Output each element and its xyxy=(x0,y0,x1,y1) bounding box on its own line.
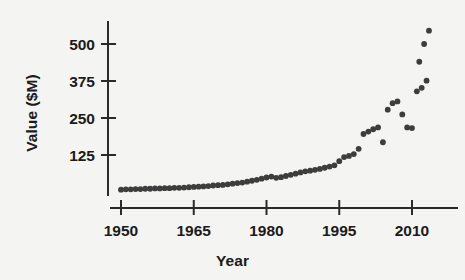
y-tick-label: 375 xyxy=(69,73,95,90)
x-tick-label: 1995 xyxy=(322,222,357,239)
data-point xyxy=(424,78,430,84)
y-tick-label: 250 xyxy=(69,110,95,127)
scatter-plot: 125250375500 19501965198019952010 xyxy=(0,0,465,280)
data-point xyxy=(283,173,289,179)
data-point xyxy=(317,166,323,172)
data-point xyxy=(322,165,328,171)
data-point xyxy=(351,151,357,157)
data-point xyxy=(375,125,381,131)
data-point xyxy=(307,168,313,174)
data-point xyxy=(268,174,274,180)
x-axis-title: Year xyxy=(0,252,465,270)
data-point xyxy=(395,99,401,105)
data-point xyxy=(244,179,250,185)
data-point xyxy=(327,164,333,170)
data-point xyxy=(341,154,347,160)
y-axis-title: Value ($M) xyxy=(23,53,41,173)
data-point xyxy=(419,85,425,91)
data-point xyxy=(288,172,294,178)
x-tick-label: 2010 xyxy=(395,222,429,239)
x-tick-label: 1980 xyxy=(249,222,283,239)
data-point xyxy=(278,174,284,180)
chart-figure: 125250375500 19501965198019952010 Value … xyxy=(0,0,465,280)
data-point xyxy=(239,180,245,186)
data-point xyxy=(254,177,260,183)
data-point xyxy=(293,171,299,177)
x-tick-label: 1965 xyxy=(177,222,212,239)
data-point xyxy=(426,28,432,34)
data-point xyxy=(298,170,304,176)
data-point xyxy=(264,175,270,181)
data-point xyxy=(336,158,342,164)
data-point xyxy=(399,112,405,118)
data-point xyxy=(380,139,386,145)
data-point xyxy=(414,88,420,94)
y-tick-label: 125 xyxy=(69,147,95,164)
data-point xyxy=(421,41,427,47)
data-point xyxy=(259,176,265,182)
data-point xyxy=(385,107,391,113)
data-point xyxy=(312,167,318,173)
data-point xyxy=(249,178,255,184)
data-point xyxy=(332,162,338,168)
data-point xyxy=(356,146,362,152)
x-tick-label: 1950 xyxy=(104,222,138,239)
y-tick-label: 500 xyxy=(69,36,95,53)
data-point xyxy=(409,125,415,131)
data-point xyxy=(416,59,422,65)
